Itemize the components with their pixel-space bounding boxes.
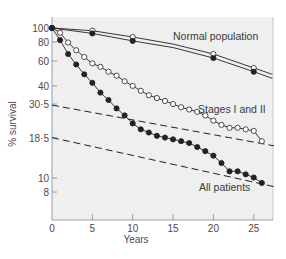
filled-data-point <box>170 137 175 142</box>
filled-data-point <box>138 127 143 132</box>
open-data-point <box>146 93 151 98</box>
y-tick-label: 18·5 <box>29 133 49 144</box>
y-tick-label: 60 <box>38 56 50 67</box>
open-data-point <box>66 40 71 45</box>
y-tick-label: 8 <box>43 187 49 198</box>
open-data-point <box>57 30 62 35</box>
open-data-point <box>74 48 79 53</box>
filled-data-point <box>114 106 119 111</box>
filled-data-point <box>82 72 87 77</box>
filled-data-point <box>66 51 71 56</box>
filled-data-point <box>146 130 151 135</box>
y-tick-label: 40 <box>38 81 50 92</box>
open-data-point <box>154 95 159 100</box>
filled-data-point <box>227 169 232 174</box>
open-data-point <box>106 69 111 74</box>
x-tick-label: 10 <box>127 223 139 234</box>
x-tick-label: 20 <box>208 223 220 234</box>
y-tick-label: 100 <box>32 23 49 34</box>
filled-data-point <box>251 175 256 180</box>
filled-data-point <box>211 153 216 158</box>
x-tick-label: 5 <box>90 223 96 234</box>
open-data-point <box>162 98 167 103</box>
filled-data-point <box>251 69 256 74</box>
y-axis-title: % survival <box>7 101 18 147</box>
filled-data-point <box>219 160 224 165</box>
filled-data-point <box>122 113 127 118</box>
open-data-point <box>259 139 264 144</box>
filled-data-point <box>57 37 62 42</box>
filled-data-point <box>203 149 208 154</box>
annotation-stages-i-and-ii: Stages I and II <box>198 103 266 115</box>
filled-data-point <box>74 62 79 67</box>
filled-data-point <box>195 144 200 149</box>
filled-data-point <box>130 121 135 126</box>
open-data-point <box>130 83 135 88</box>
annotation-normal-population: Normal population <box>173 30 258 42</box>
filled-data-point <box>154 133 159 138</box>
open-data-point <box>211 118 216 123</box>
x-tick-label: 0 <box>49 223 55 234</box>
filled-data-point <box>98 90 103 95</box>
filled-data-point <box>179 139 184 144</box>
y-tick-label: 30·5 <box>29 99 49 110</box>
filled-data-point <box>235 169 240 174</box>
open-data-point <box>227 125 232 130</box>
open-data-point <box>187 107 192 112</box>
x-tick-label: 25 <box>248 223 260 234</box>
y-tick-label: 10 <box>38 173 50 184</box>
x-tick-label: 15 <box>167 223 179 234</box>
filled-data-point <box>259 180 264 185</box>
filled-data-point <box>90 80 95 85</box>
filled-data-point <box>130 38 135 43</box>
open-data-point <box>179 105 184 110</box>
open-data-point <box>82 54 87 59</box>
open-data-point <box>138 88 143 93</box>
filled-data-point <box>211 55 216 60</box>
open-data-point <box>243 127 248 132</box>
survival-chart: 10080604030·518·5108 0510152025 Years % … <box>0 0 286 259</box>
open-data-point <box>235 125 240 130</box>
filled-data-point <box>49 25 54 30</box>
open-data-point <box>251 128 256 133</box>
open-data-point <box>114 73 119 78</box>
open-data-point <box>170 101 175 106</box>
filled-data-point <box>90 31 95 36</box>
open-data-point <box>219 122 224 127</box>
annotation-all-patients: All patients <box>199 181 250 193</box>
filled-data-point <box>243 172 248 177</box>
open-data-point <box>90 61 95 66</box>
open-data-point <box>122 79 127 84</box>
y-tick-label: 80 <box>38 37 50 48</box>
filled-data-point <box>106 97 111 102</box>
x-axis-title: Years <box>123 234 148 245</box>
filled-data-point <box>187 140 192 145</box>
open-data-point <box>98 64 103 69</box>
filled-data-point <box>162 135 167 140</box>
